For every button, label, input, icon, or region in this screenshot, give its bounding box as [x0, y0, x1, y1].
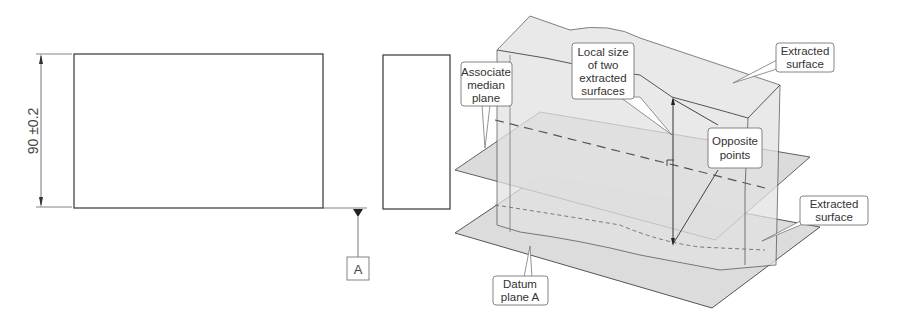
svg-text:surface: surface	[786, 58, 824, 70]
dimension-arrow-top-icon	[39, 54, 43, 64]
callout-opposite-points: Opposite points	[708, 128, 762, 168]
svg-text:points: points	[720, 149, 751, 161]
svg-text:Opposite: Opposite	[712, 135, 758, 147]
isometric-view	[455, 16, 820, 308]
svg-text:surfaces: surfaces	[581, 85, 625, 97]
svg-text:plane: plane	[472, 92, 500, 104]
callout-extracted-surface-bottom: Extracted surface	[762, 196, 868, 241]
technical-drawing: 90 ±0.2 A Assoc	[0, 0, 897, 323]
svg-text:of two: of two	[588, 59, 619, 71]
svg-text:Associate: Associate	[461, 66, 511, 78]
svg-text:Local size: Local size	[577, 46, 628, 58]
svg-text:extracted: extracted	[579, 72, 626, 84]
svg-text:surface: surface	[815, 211, 853, 223]
svg-text:Extracted: Extracted	[810, 198, 859, 210]
datum-label: A	[354, 262, 363, 277]
callout-extracted-surface-top: Extracted surface	[733, 43, 834, 83]
front-view-rectangle	[74, 54, 323, 208]
dimension-label: 90 ±0.2	[25, 107, 41, 154]
front-view: 90 ±0.2 A	[25, 54, 369, 280]
svg-text:Datum: Datum	[503, 278, 537, 290]
svg-text:Extracted: Extracted	[781, 45, 830, 57]
datum-triangle-icon	[353, 209, 363, 217]
svg-text:median: median	[467, 79, 505, 91]
dimension-arrow-bottom-icon	[39, 197, 43, 207]
side-view-rectangle	[383, 55, 450, 209]
svg-text:plane A: plane A	[501, 291, 540, 303]
